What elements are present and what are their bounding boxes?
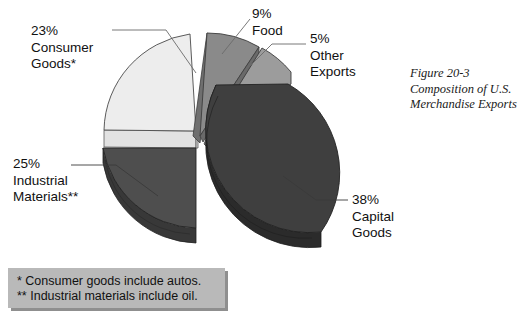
pie-label-food-line2: Food [252, 23, 283, 40]
figure-caption-number: Figure 20-3 [410, 66, 528, 82]
figure-caption: Figure 20-3 Composition of U.S. Merchand… [410, 66, 528, 113]
pie-label-capital-goods: 38% Capital Goods [352, 192, 394, 242]
pie-label-consumer-goods: 23% Consumer Goods* [31, 23, 93, 73]
pie-slice-consumer-goods-side [104, 130, 196, 148]
pie-label-capital-goods-line3: Goods [352, 225, 394, 242]
pie-slice-capital-goods-top [206, 84, 340, 233]
pie-label-industrial-materials-line3: Materials** [13, 189, 78, 206]
pie-label-industrial-materials-line2: Industrial [13, 173, 78, 190]
footnote-line-consumer-goods: * Consumer goods include autos. [17, 274, 225, 289]
pie-label-capital-goods-percent: 38% [352, 192, 394, 209]
figure-caption-title-line1: Composition of U.S. [410, 82, 528, 98]
pie-slice-capital-goods[interactable] [206, 84, 340, 248]
pie-slice-consumer-goods-top [104, 34, 196, 131]
pie-label-food: 9% Food [252, 6, 283, 39]
pie-label-other-exports-percent: 5% [310, 31, 356, 48]
footnote-line-industrial-materials: ** Industrial materials include oil. [17, 289, 225, 304]
pie-label-consumer-goods-line3: Goods* [31, 56, 93, 73]
pie-label-consumer-goods-percent: 23% [31, 23, 93, 40]
pie-label-other-exports-line3: Exports [310, 64, 356, 81]
figure-caption-title-line2: Merchandise Exports [410, 97, 528, 113]
pie-label-consumer-goods-line2: Consumer [31, 40, 93, 57]
pie-slice-consumer-goods[interactable] [104, 34, 198, 148]
pie-label-capital-goods-line2: Capital [352, 209, 394, 226]
pie-label-food-percent: 9% [252, 6, 283, 23]
pie-chart-figure: 23% Consumer Goods* 9% Food 5% Other Exp… [0, 0, 529, 326]
footnote-box: * Consumer goods include autos. ** Indus… [8, 268, 225, 308]
pie-label-industrial-materials-percent: 25% [13, 156, 78, 173]
pie-label-industrial-materials: 25% Industrial Materials** [13, 156, 78, 206]
pie-slice-industrial-materials[interactable] [103, 148, 196, 243]
pie-label-other-exports: 5% Other Exports [310, 31, 356, 81]
pie-label-other-exports-line2: Other [310, 48, 356, 65]
